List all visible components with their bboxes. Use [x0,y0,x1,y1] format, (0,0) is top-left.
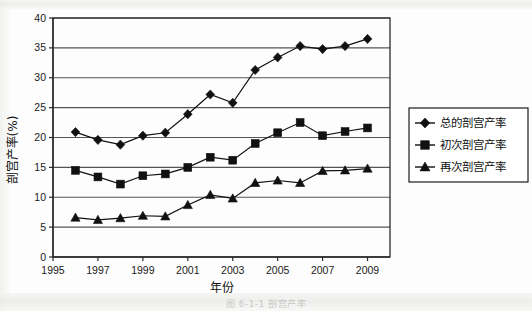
data-point [94,173,102,181]
y-tick-label: 25 [34,101,46,113]
series-2 [72,119,372,188]
x-tick-label: 2001 [176,264,200,276]
data-point [364,124,372,132]
data-point [341,128,349,136]
data-point [229,156,237,164]
x-tick-label: 2007 [311,264,335,276]
data-point [228,98,237,107]
y-tick-label: 30 [34,71,46,83]
data-point [206,190,215,198]
data-point [363,164,372,172]
x-tick-label: 2009 [356,264,380,276]
data-point [319,132,327,140]
y-tick-label: 10 [34,191,46,203]
data-point [94,135,103,144]
figure-caption: 图 6-1-1 剖宫产率 [0,297,532,310]
data-point [251,65,260,74]
data-point [318,44,327,53]
figure-container: 0510152025303540 19951997199920012003200… [0,0,532,311]
data-point [296,119,304,127]
data-point [139,172,147,180]
data-point [273,53,282,62]
data-point [274,129,282,137]
data-point [273,176,282,184]
data-point [138,131,147,140]
legend-label: 总的剖宫产率 [440,116,506,130]
gridlines [53,18,390,227]
data-point [296,41,305,50]
legend-marker-square [421,141,430,150]
y-tick-label: 35 [34,41,46,53]
y-axis-title: 剖宫产率(%) [5,116,20,185]
data-point [183,200,192,208]
x-axis-title: 年份 [210,281,234,295]
chart-legend: 总的剖宫产率初次剖宫产率再次剖宫产率 [409,108,528,182]
legend-label: 再次剖宫产率 [440,160,506,174]
y-tick-label: 5 [40,221,46,233]
data-point [184,163,192,171]
data-point [71,213,80,221]
data-series-group [71,34,372,223]
data-point [116,180,124,188]
data-point [72,166,80,174]
cesarean-rate-line-chart: 0510152025303540 19951997199920012003200… [0,0,532,311]
x-tick-label: 2005 [266,264,290,276]
y-tick-label: 40 [34,12,46,24]
data-point [116,140,125,149]
x-tick-label: 1997 [86,264,110,276]
data-point [71,128,80,137]
data-point [341,41,350,50]
legend-label: 初次剖宫产率 [440,138,506,152]
data-point [251,140,259,148]
data-point [161,170,169,178]
y-tick-label: 15 [34,161,46,173]
data-point [206,153,214,161]
y-axis-tick-labels: 0510152025303540 [34,12,46,263]
x-tick-label: 2003 [221,264,245,276]
y-tick-label: 0 [40,251,46,263]
data-point [363,34,372,43]
y-tick-label: 20 [34,131,46,143]
series-3 [71,164,372,224]
x-tick-label: 1999 [131,264,155,276]
x-tick-label: 1995 [41,264,65,276]
x-axis-tick-labels: 19951997199920012003200520072009 [41,264,379,276]
